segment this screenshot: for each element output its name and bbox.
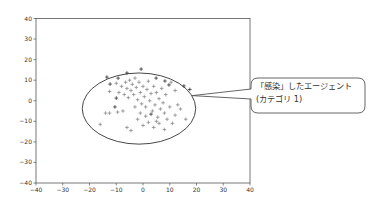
y-tick-label: −40 <box>19 179 32 186</box>
y-tick-label: −20 <box>19 138 32 145</box>
plot-frame <box>36 19 250 184</box>
x-tick-label: −40 <box>30 186 43 193</box>
y-tick-label: 30 <box>24 35 32 42</box>
series-infected-category-1- <box>105 67 192 116</box>
x-tick-label: −20 <box>83 186 96 193</box>
x-tick-label: 10 <box>166 186 174 193</box>
x-tick-label: 40 <box>246 186 254 193</box>
x-tick-label: −30 <box>56 186 69 193</box>
callout-line-1: 「感染」したエージェント <box>256 80 366 93</box>
y-tick-label: −30 <box>19 158 32 165</box>
y-tick-label: −10 <box>19 117 32 124</box>
x-tick-label: 0 <box>141 186 145 193</box>
y-tick-label: 10 <box>24 76 32 83</box>
y-tick-label: 20 <box>24 56 32 63</box>
y-tick-label: 0 <box>28 97 32 104</box>
callout-line-2: (カテゴリ 1) <box>256 93 366 106</box>
callout-label: 「感染」したエージェント (カテゴリ 1) <box>256 80 366 106</box>
y-tick-label: 40 <box>24 15 32 22</box>
x-tick-label: −10 <box>110 186 123 193</box>
series-other-agents <box>98 76 187 132</box>
x-tick-label: 20 <box>193 186 201 193</box>
plot-axes: −40−30−20−10010203040403020100−10−20−30−… <box>19 15 254 194</box>
x-tick-label: 30 <box>219 186 227 193</box>
